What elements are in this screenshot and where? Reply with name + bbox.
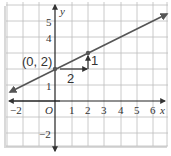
x-axis-label: x [159, 104, 165, 116]
origin-label: O [45, 104, 53, 116]
y-axis-label: y [59, 5, 65, 17]
coordinate-graph: (0, 2) 2 1 y x O −2 1 2 3 4 5 6 5 4 1 −2 [0, 0, 171, 156]
x-tick-1: 1 [69, 104, 75, 116]
point-2-3 [86, 51, 90, 55]
x-tick-4: 4 [118, 104, 124, 116]
point-0-2 [53, 67, 57, 71]
y-tick-4: 4 [46, 32, 52, 44]
point-label: (0, 2) [22, 54, 52, 69]
x-tick-2: 2 [85, 104, 91, 116]
y-tick-5: 5 [46, 16, 52, 28]
y-tick-1: 1 [46, 80, 52, 92]
y-tick-m2: −2 [39, 128, 51, 140]
x-tick-5: 5 [134, 104, 140, 116]
x-tick-3: 3 [101, 104, 107, 116]
rise-label: 1 [91, 53, 98, 68]
run-label: 2 [67, 71, 74, 86]
graph-paper [6, 2, 168, 146]
x-tick-m2: −2 [10, 104, 22, 116]
x-tick-6: 6 [150, 104, 156, 116]
